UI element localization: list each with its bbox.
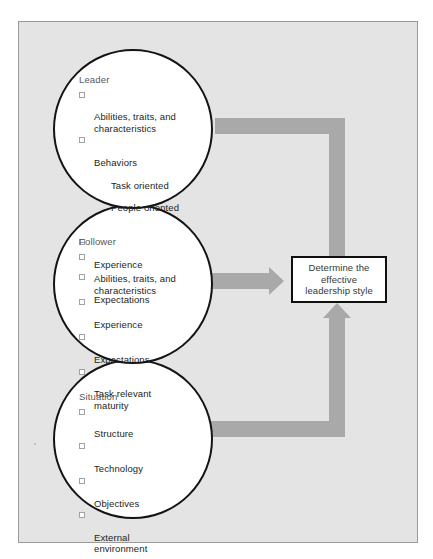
list-item: Objectives <box>79 475 147 509</box>
list-item: Technology <box>79 441 147 475</box>
list-item-label: Experience <box>94 319 143 330</box>
figure-panel: Leader Abilities, traits, and characteri… <box>18 21 418 543</box>
circle-title-leader: Leader <box>79 74 109 85</box>
checkbox-icon[interactable] <box>79 478 85 484</box>
circle-content-leader: Leader Abilities, traits, and characteri… <box>53 49 213 209</box>
list-item-label: Abilities, traits, and characteristics <box>94 273 176 295</box>
list-item: External environment <box>79 510 147 555</box>
list-item-label: External environment <box>94 532 147 554</box>
list-item: Abilities, traits, and characteristics <box>79 89 179 134</box>
checkbox-icon[interactable] <box>79 254 85 260</box>
list-item-label: Abilities, traits, and characteristics <box>94 111 176 133</box>
arrow-situation-arrowhead-up-icon <box>323 303 351 318</box>
arrow-situation-vertical-segment <box>329 318 345 437</box>
arrow-follower-arrowhead-right-icon <box>269 267 284 295</box>
item-list-situation: Structure Technology Objectives External… <box>79 406 147 556</box>
circle-content-follower: Follower Abilities, traits, and characte… <box>53 204 213 364</box>
list-item: Structure <box>79 406 147 440</box>
circle-title-situation: Situation <box>79 391 117 402</box>
list-item-label: Behaviors <box>94 157 137 168</box>
circle-title-follower: Follower <box>79 236 116 247</box>
arrow-leader-horizontal-segment <box>215 118 345 134</box>
checkbox-icon[interactable] <box>79 299 85 305</box>
list-item: Experience <box>79 297 176 331</box>
checkbox-icon[interactable] <box>79 137 85 143</box>
scan-artifact-speck <box>34 443 36 445</box>
sub-list-item: Task oriented <box>111 180 179 191</box>
list-item-label: Technology <box>94 463 143 474</box>
arrow-situation-horizontal-segment <box>205 421 345 437</box>
circle-content-situation: Situation Structure Technology Objective… <box>53 359 213 519</box>
result-box-label: Determine the effective leadership style <box>305 262 373 297</box>
result-box: Determine the effective leadership style <box>291 256 387 303</box>
checkbox-icon[interactable] <box>79 92 85 98</box>
list-item-label: Objectives <box>94 498 139 509</box>
list-item: Abilities, traits, and characteristics <box>79 251 176 296</box>
arrow-follower-horizontal-segment <box>205 273 271 289</box>
checkbox-icon[interactable] <box>79 409 85 415</box>
checkbox-icon[interactable] <box>79 443 85 449</box>
list-item-label: Structure <box>94 428 133 439</box>
checkbox-icon[interactable] <box>79 512 85 518</box>
checkbox-icon[interactable] <box>79 334 85 340</box>
